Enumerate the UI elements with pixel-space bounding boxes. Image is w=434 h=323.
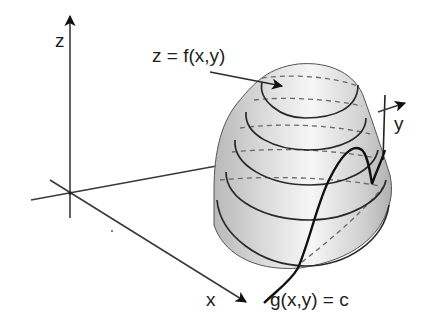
surface-label: z = f(x,y) bbox=[152, 45, 225, 66]
lagrange-surface-diagram: z x y z = f(x,y) g(x,y) = c bbox=[0, 0, 434, 323]
y-axis-arrow bbox=[378, 103, 405, 112]
stray-dot bbox=[111, 230, 113, 232]
y-axis-back bbox=[31, 165, 222, 200]
surface bbox=[214, 64, 391, 269]
z-axis-label: z bbox=[55, 30, 65, 51]
x-axis-label: x bbox=[206, 289, 216, 310]
constraint-label: g(x,y) = c bbox=[270, 289, 349, 310]
y-axis-label: y bbox=[394, 113, 404, 134]
origin-point bbox=[68, 191, 72, 195]
surface-body bbox=[214, 64, 391, 269]
